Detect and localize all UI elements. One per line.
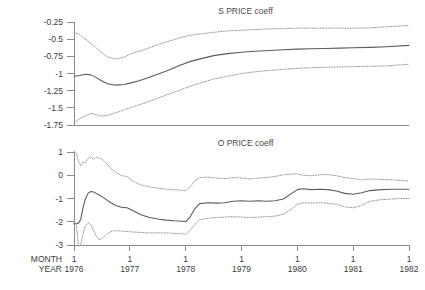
y-tick-label-bottom-1: 0 [58,170,63,180]
x-tick-year-4: 1980 [288,264,307,274]
x-tick-year-6: 1982 [400,264,419,274]
y-tick-label-bottom-3: -2 [55,217,63,227]
y-tick-label-bottom-2: -1 [55,194,63,204]
x-tick-month-1: 1 [127,254,132,264]
x-tick-month-6: 1 [407,254,412,264]
y-tick-label-top-6: -1.75 [44,120,64,130]
x-tick-month-5: 1 [351,254,356,264]
x-tick-year-1: 1977 [120,264,139,274]
x-tick-month-3: 1 [239,254,244,264]
dual-panel-coefficient-chart: S PRICE coeff-0.25-0.5-0.75-1-1.25-1.5-1… [0,0,425,290]
month-axis-label: MONTH [31,254,62,264]
x-tick-year-0: 1976 [65,264,84,274]
panel-top: S PRICE coeff-0.25-0.5-0.75-1-1.25-1.5-1… [44,6,409,130]
y-tick-label-bottom-4: -3 [55,240,63,250]
y-tick-label-top-1: -0.5 [48,34,63,44]
y-tick-label-bottom-0: 1 [58,147,63,157]
y-tick-label-top-3: -1 [55,69,63,79]
x-tick-month-2: 1 [183,254,188,264]
chart-figure: S PRICE coeff-0.25-0.5-0.75-1-1.25-1.5-1… [0,0,425,290]
y-tick-label-top-0: -0.25 [44,17,64,27]
panel-title-bottom: O PRICE coeff [218,138,274,148]
panel-title-top: S PRICE coeff [218,6,273,16]
panel-bottom: O PRICE coeff10-1-2-31197611977119781197… [31,138,419,274]
x-tick-month-0: 1 [72,254,77,264]
x-tick-year-5: 1981 [344,264,363,274]
x-tick-month-4: 1 [295,254,300,264]
series-bottom-lower-band [74,199,409,247]
series-top-coefficient-estimate [74,45,409,85]
series-top-lower-band [74,64,409,123]
x-tick-year-3: 1979 [232,264,251,274]
series-top-upper-band [74,25,409,59]
series-bottom-upper-band [74,151,409,191]
year-axis-label: YEAR [39,264,62,274]
y-tick-label-top-5: -1.5 [48,103,63,113]
y-tick-label-top-4: -1.25 [44,86,64,96]
x-tick-year-2: 1978 [176,264,195,274]
y-tick-label-top-2: -0.75 [44,51,64,61]
